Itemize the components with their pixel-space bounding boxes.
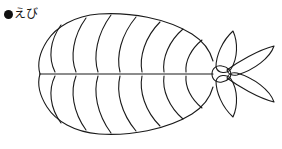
- segment-divider-upper-5: [141, 22, 160, 72]
- segment-divider-upper-4: [119, 17, 136, 72]
- segment-divider-upper-3: [96, 15, 111, 72]
- segment-divider-lower-4: [119, 76, 136, 131]
- segment-divider-lower-5: [141, 76, 160, 126]
- segment-divider-upper-1: [51, 25, 61, 72]
- tail-fin-lower-outer: [227, 73, 274, 102]
- segment-divider-lower-7: [186, 76, 202, 108]
- body-outline-upper: [39, 14, 213, 74]
- tail-joint-oval: [212, 66, 231, 82]
- illustration-page: えび: [0, 0, 282, 149]
- segment-divider-upper-7: [186, 40, 202, 72]
- tail-fin-upper-outer: [227, 46, 274, 75]
- shrimp-line-drawing: [0, 0, 282, 149]
- segment-divider-upper-2: [73, 18, 86, 72]
- segment-divider-lower-3: [96, 76, 111, 133]
- segment-divider-lower-6: [164, 76, 183, 119]
- segment-divider-upper-6: [164, 29, 183, 72]
- segment-divider-lower-2: [73, 76, 86, 130]
- segment-divider-lower-1: [51, 76, 61, 123]
- body-outline-lower: [39, 74, 213, 134]
